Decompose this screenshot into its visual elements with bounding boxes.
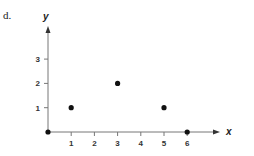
data-point bbox=[115, 81, 120, 86]
panel-label: d. bbox=[3, 9, 12, 21]
y-axis-label: y bbox=[42, 11, 49, 22]
data-points bbox=[45, 81, 189, 135]
x-tick-label: 1 bbox=[69, 139, 74, 148]
x-tick-label: 6 bbox=[185, 139, 190, 148]
x-tick-label: 5 bbox=[162, 139, 167, 148]
x-ticks: 123456 bbox=[69, 132, 190, 148]
y-tick-label: 1 bbox=[36, 104, 41, 113]
scatter-chart: d. y x 123456 123 bbox=[0, 0, 254, 156]
y-tick-label: 3 bbox=[36, 55, 41, 64]
y-ticks: 123 bbox=[36, 55, 48, 113]
x-axis-arrow-icon bbox=[213, 130, 220, 135]
axes bbox=[46, 26, 221, 135]
x-tick-label: 2 bbox=[92, 139, 97, 148]
x-axis-label: x bbox=[225, 126, 232, 137]
y-axis-arrow-icon bbox=[46, 26, 51, 33]
x-tick-label: 4 bbox=[139, 139, 144, 148]
data-point bbox=[45, 129, 50, 134]
data-point bbox=[161, 105, 166, 110]
data-point bbox=[69, 105, 74, 110]
data-point bbox=[185, 129, 190, 134]
y-tick-label: 2 bbox=[36, 79, 41, 88]
x-tick-label: 3 bbox=[115, 139, 120, 148]
